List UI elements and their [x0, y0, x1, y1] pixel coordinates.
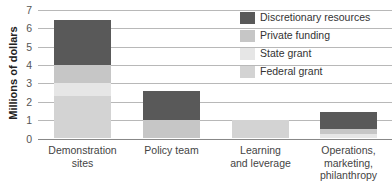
legend-item: State grant	[238, 46, 392, 64]
legend-label: Discretionary resources	[260, 11, 370, 23]
bar-segment-discretionary-resources	[320, 112, 377, 129]
y-tick-label: 0	[20, 134, 32, 144]
y-tick-label: 2	[20, 97, 32, 107]
bar-segment-private-funding	[143, 120, 200, 138]
legend-swatch	[240, 66, 255, 78]
bar-segment-discretionary-resources	[54, 20, 111, 65]
legend-item: Private funding	[238, 28, 392, 46]
x-tick-label: Learningand leverage	[216, 144, 306, 169]
legend-swatch	[240, 30, 255, 42]
y-tick-label: 7	[20, 5, 32, 15]
bar-segment-private-funding	[320, 129, 377, 134]
legend-item: Federal grant	[238, 64, 392, 82]
y-tick-label: 4	[20, 60, 32, 70]
y-axis-label: Millions of dollars	[6, 18, 20, 128]
y-tick-label: 6	[20, 23, 32, 33]
bar-segment-state-grant	[320, 134, 377, 139]
bar-segment-private-funding	[54, 65, 111, 83]
x-tick-label: Operations,marketing,philanthropy	[304, 144, 392, 182]
x-tick-label: Demonstrationsites	[38, 144, 128, 169]
legend: Discretionary resourcesPrivate fundingSt…	[238, 10, 392, 82]
legend-label: Private funding	[260, 29, 330, 41]
bar-segment-federal-grant	[232, 120, 289, 138]
y-tick-label: 5	[20, 42, 32, 52]
stacked-bar-chart: Millions of dollars 01234567 Demonstrati…	[0, 0, 392, 183]
legend-label: State grant	[260, 47, 311, 59]
bar-segment-state-grant	[54, 83, 111, 96]
legend-item: Discretionary resources	[238, 10, 392, 28]
y-tick-label: 1	[20, 115, 32, 125]
bar-segment-federal-grant	[54, 96, 111, 138]
legend-swatch	[240, 12, 255, 24]
y-tick-label: 3	[20, 78, 32, 88]
bar-segment-discretionary-resources	[143, 91, 200, 120]
legend-label: Federal grant	[260, 65, 322, 77]
legend-swatch	[240, 48, 255, 60]
x-tick-label: Policy team	[127, 144, 217, 157]
